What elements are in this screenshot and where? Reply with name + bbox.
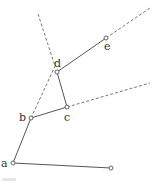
label-a: a [1,157,8,170]
node-c [65,105,69,109]
label-d: d [54,57,61,70]
label-c: c [64,111,70,124]
link-b-c [31,107,67,118]
caption-remnant [2,178,16,181]
dashed-line-top-to-d [38,14,55,66]
node-end [109,166,113,170]
label-b: b [19,111,26,124]
node-b [29,116,33,120]
link-a-f [13,163,111,168]
link-c-d [57,72,67,107]
node-a [11,161,15,165]
link-a-b [13,118,31,163]
dashed-line-b-up [31,64,56,118]
node-d [55,70,59,74]
link-d-e [57,38,106,72]
dashed-line-e-extension [106,8,150,38]
dashed-line-c-extension [67,83,150,107]
label-e: e [104,40,111,53]
linkage-diagram: a b c d e [0,0,155,184]
